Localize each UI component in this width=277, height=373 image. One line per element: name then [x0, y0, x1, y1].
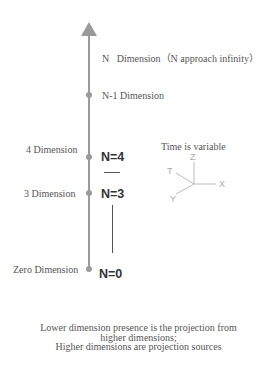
n3-label: N=3 — [101, 187, 124, 201]
n-1-dimension-label: N-1 Dimension — [102, 90, 164, 101]
zero-dimension-label: Zero Dimension — [13, 264, 78, 275]
footer-caption: Lower dimension presence is the projecti… — [0, 323, 277, 352]
dot-3 — [86, 190, 92, 196]
axes-caption: Time is variable — [161, 141, 226, 152]
footer-line-3: Higher dimensions are projection sources — [0, 342, 277, 352]
n4-label: N=4 — [101, 150, 124, 164]
four-dimension-label: 4 Dimension — [26, 144, 77, 155]
x-axis-label: X — [219, 179, 225, 189]
n0-label: N=0 — [99, 267, 122, 281]
vertical-divider — [112, 205, 113, 253]
z-axis-label: Z — [190, 152, 196, 162]
three-dimension-label: 3 Dimension — [24, 188, 75, 199]
axis-arrow-icon — [81, 22, 97, 36]
t-axis-label: T — [167, 166, 173, 176]
dot-4 — [86, 154, 92, 160]
dot-0 — [86, 266, 92, 272]
dimension-axis — [88, 30, 90, 268]
dash-divider — [104, 172, 120, 173]
y-axis-label: Y — [170, 194, 176, 202]
dot-n-1 — [86, 92, 92, 98]
xyzt-axes-icon: Z T X Y — [160, 152, 230, 202]
top-dimension-label: N Dimension（N approach infinity） — [102, 50, 259, 65]
